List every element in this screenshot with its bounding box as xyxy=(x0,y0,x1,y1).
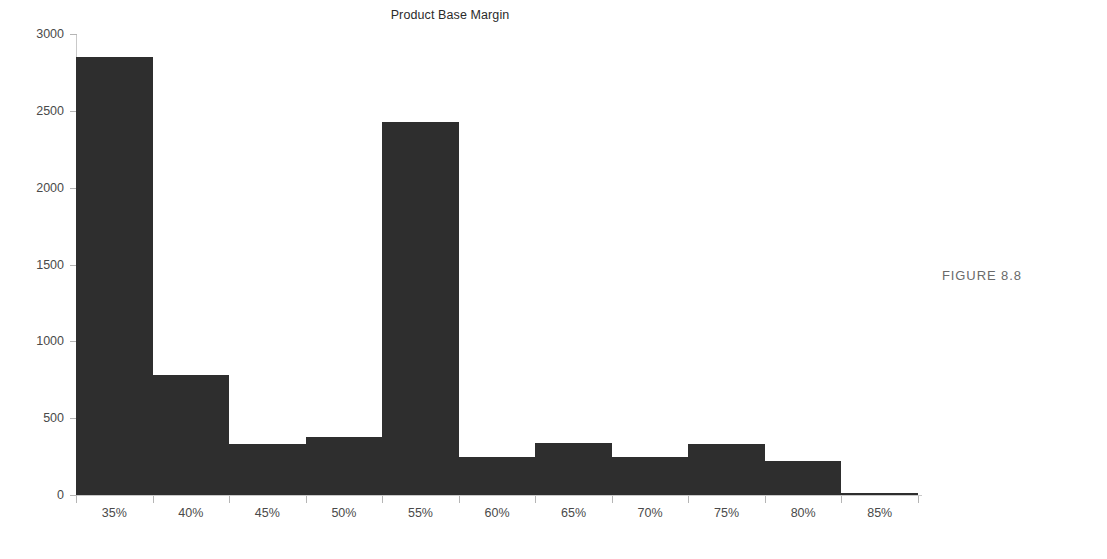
y-axis-tick-label: 2000 xyxy=(16,182,64,195)
x-axis-tick xyxy=(841,496,842,503)
histogram-bar xyxy=(612,457,689,495)
chart-title: Product Base Margin xyxy=(0,8,900,22)
x-axis-tick xyxy=(612,496,613,503)
y-axis-tick-label: 1500 xyxy=(16,259,64,272)
x-axis-tick-label: 55% xyxy=(380,506,460,520)
x-axis-tick xyxy=(382,496,383,503)
histogram-bar xyxy=(382,122,459,495)
figure-root: Product Base Margin 05001000150020002500… xyxy=(0,0,1107,559)
x-axis-tick-label: 65% xyxy=(534,506,614,520)
histogram-bar xyxy=(765,461,842,495)
x-axis-tick xyxy=(459,496,460,503)
histogram-bar xyxy=(841,493,918,495)
x-axis-tick-label: 70% xyxy=(610,506,690,520)
x-axis-tick-label: 75% xyxy=(687,506,767,520)
histogram-bar xyxy=(76,57,153,495)
figure-caption: FIGURE 8.8 xyxy=(942,268,1022,283)
x-axis-tick xyxy=(765,496,766,503)
x-axis-tick xyxy=(535,496,536,503)
x-axis-tick-label: 60% xyxy=(457,506,537,520)
x-axis-tick xyxy=(153,496,154,503)
y-axis-tick-label: 500 xyxy=(16,412,64,425)
y-axis-tick-label: 2500 xyxy=(16,105,64,118)
x-axis-tick xyxy=(229,496,230,503)
y-axis-tick-label: 3000 xyxy=(16,28,64,41)
histogram-bar xyxy=(306,437,383,495)
x-axis-tick xyxy=(306,496,307,503)
histogram-bar xyxy=(535,443,612,495)
x-axis-tick xyxy=(918,496,919,503)
histogram-bar xyxy=(229,444,306,495)
y-axis-tick-label: 0 xyxy=(16,489,64,502)
x-axis-tick-label: 80% xyxy=(763,506,843,520)
x-axis-tick xyxy=(76,496,77,503)
x-axis-tick-label: 40% xyxy=(151,506,231,520)
bars-layer xyxy=(76,34,918,495)
histogram-bar xyxy=(459,457,536,495)
x-axis-tick-label: 50% xyxy=(304,506,384,520)
x-axis-tick-label: 35% xyxy=(74,506,154,520)
histogram-bar xyxy=(153,375,230,495)
y-axis-tick-label: 1000 xyxy=(16,335,64,348)
x-axis-tick-label: 45% xyxy=(227,506,307,520)
x-axis-tick xyxy=(688,496,689,503)
x-axis-tick-label: 85% xyxy=(840,506,920,520)
plot-area xyxy=(76,34,918,495)
histogram-bar xyxy=(688,444,765,495)
x-axis-line xyxy=(76,495,922,496)
histogram-chart: Product Base Margin 05001000150020002500… xyxy=(0,0,900,559)
